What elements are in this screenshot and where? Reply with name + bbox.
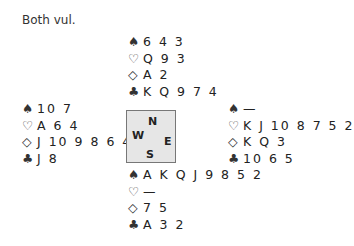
- north-spades-cards: 6 4 3: [143, 34, 185, 49]
- west-hearts: ♡A 6 4: [22, 118, 132, 135]
- compass-box: N W E S: [126, 110, 176, 163]
- north-hearts-cards: Q 9 3: [143, 51, 187, 66]
- west-clubs: ♣J 8: [22, 151, 132, 168]
- south-spades: ♠A K Q J 9 8 5 2: [128, 167, 263, 184]
- west-diamonds-cards: J 10 9 8 6 4: [37, 134, 132, 149]
- heart-icon: ♡: [128, 51, 143, 68]
- vulnerability-label: Both vul.: [22, 13, 76, 27]
- diamond-icon: ◇: [128, 67, 143, 84]
- compass-north: N: [148, 115, 157, 128]
- south-clubs-cards: A 3 2: [143, 217, 185, 232]
- north-hearts: ♡Q 9 3: [128, 51, 219, 68]
- south-diamonds-cards: 7 5: [143, 200, 169, 215]
- west-hearts-cards: A 6 4: [37, 118, 79, 133]
- west-hand: ♠10 7 ♡A 6 4 ◇J 10 9 8 6 4 ♣J 8: [22, 101, 132, 167]
- north-clubs-cards: K Q 9 7 4: [143, 84, 219, 99]
- south-clubs: ♣A 3 2: [128, 217, 263, 234]
- spade-icon: ♠: [22, 101, 37, 118]
- north-hand: ♠6 4 3 ♡Q 9 3 ◇A 2 ♣K Q 9 7 4: [128, 34, 219, 100]
- west-spades-cards: 10 7: [37, 101, 73, 116]
- west-clubs-cards: J 8: [37, 151, 59, 166]
- club-icon: ♣: [22, 151, 37, 168]
- south-hearts-cards: —: [143, 184, 158, 199]
- club-icon: ♣: [228, 151, 243, 168]
- heart-icon: ♡: [22, 118, 37, 135]
- club-icon: ♣: [128, 84, 143, 101]
- spade-icon: ♠: [228, 101, 243, 118]
- west-diamonds: ◇J 10 9 8 6 4: [22, 134, 132, 151]
- north-clubs: ♣K Q 9 7 4: [128, 84, 219, 101]
- south-diamonds: ◇7 5: [128, 200, 263, 217]
- heart-icon: ♡: [228, 118, 243, 135]
- east-hand: ♠— ♡K J 10 8 7 5 2 ◇K Q 3 ♣10 6 5: [228, 101, 354, 167]
- east-spades-cards: —: [243, 101, 258, 116]
- spade-icon: ♠: [128, 167, 143, 184]
- diamond-icon: ◇: [228, 134, 243, 151]
- south-spades-cards: A K Q J 9 8 5 2: [143, 167, 263, 182]
- diamond-icon: ◇: [128, 200, 143, 217]
- heart-icon: ♡: [128, 184, 143, 201]
- north-spades: ♠6 4 3: [128, 34, 219, 51]
- spade-icon: ♠: [128, 34, 143, 51]
- compass-south: S: [146, 148, 154, 161]
- west-spades: ♠10 7: [22, 101, 132, 118]
- east-spades: ♠—: [228, 101, 354, 118]
- south-hand: ♠A K Q J 9 8 5 2 ♡— ◇7 5 ♣A 3 2: [128, 167, 263, 233]
- east-diamonds-cards: K Q 3: [243, 134, 287, 149]
- east-diamonds: ◇K Q 3: [228, 134, 354, 151]
- compass-west: W: [132, 129, 144, 142]
- north-diamonds-cards: A 2: [143, 67, 169, 82]
- east-clubs: ♣10 6 5: [228, 151, 354, 168]
- compass-east: E: [164, 135, 172, 148]
- east-clubs-cards: 10 6 5: [243, 151, 295, 166]
- east-hearts: ♡K J 10 8 7 5 2: [228, 118, 354, 135]
- diamond-icon: ◇: [22, 134, 37, 151]
- club-icon: ♣: [128, 217, 143, 234]
- south-hearts: ♡—: [128, 184, 263, 201]
- east-hearts-cards: K J 10 8 7 5 2: [243, 118, 354, 133]
- north-diamonds: ◇A 2: [128, 67, 219, 84]
